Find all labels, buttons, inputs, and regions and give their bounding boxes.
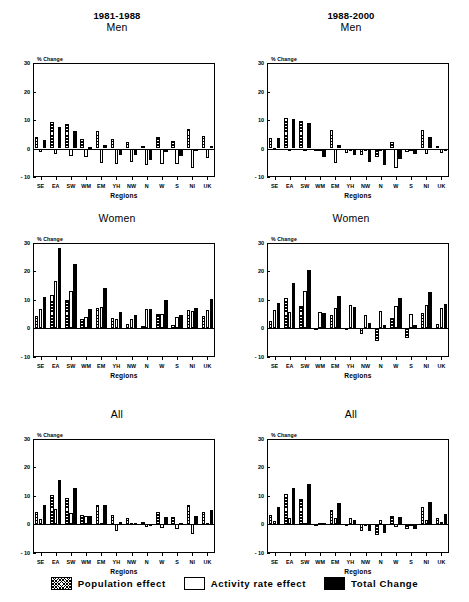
- bar-pop-se: [269, 515, 272, 524]
- y-tick-label: 30: [14, 240, 30, 246]
- x-tick-mark: [290, 357, 291, 360]
- bar-pop-n: [141, 326, 144, 328]
- x-tick-mark: [305, 553, 306, 556]
- y-tick-label: 10: [14, 117, 30, 123]
- legend-item-population-effect: Population effect: [51, 577, 166, 590]
- y-tick-mark: [33, 439, 36, 440]
- bar-act-sw: [303, 149, 306, 151]
- bar-act-em: [334, 308, 337, 328]
- bar-tot-ea: [292, 283, 295, 328]
- legend-item-total-change: Total Change: [324, 577, 418, 590]
- bar-act-w: [160, 524, 163, 528]
- y-tick-label: - 10: [248, 550, 264, 556]
- bar-pop-wm: [314, 149, 317, 152]
- bar-act-ni: [191, 524, 194, 534]
- x-axis-label: Regions: [33, 192, 215, 199]
- bar-tot-ea: [58, 480, 61, 524]
- x-tick-mark: [426, 357, 427, 360]
- bar-act-se: [39, 149, 42, 153]
- bar-tot-se: [277, 507, 280, 524]
- y-tick-label: 30: [248, 60, 264, 66]
- y-tick-label: 0: [248, 521, 264, 527]
- bar-act-w: [394, 524, 397, 527]
- bar-act-se: [273, 148, 276, 150]
- bar-tot-se: [43, 140, 46, 148]
- bar-pop-wm: [80, 515, 83, 524]
- x-tick-mark: [320, 357, 321, 360]
- x-tick-mark: [86, 553, 87, 556]
- bar-pop-nw: [126, 142, 129, 149]
- y-axis-label: % Change: [37, 432, 63, 438]
- bar-pop-n: [375, 149, 378, 158]
- bar-act-em: [100, 307, 103, 328]
- x-tick-mark: [366, 553, 367, 556]
- y-tick-mark: [33, 357, 36, 358]
- bar-act-uk: [206, 310, 209, 328]
- bar-tot-w: [398, 517, 401, 524]
- x-tick-mark: [132, 177, 133, 180]
- bar-tot-wm: [88, 147, 91, 149]
- bar-act-w: [160, 314, 163, 328]
- bar-pop-wm: [80, 139, 83, 149]
- y-tick-label: 10: [14, 297, 30, 303]
- bar-pop-w: [390, 142, 393, 149]
- y-tick-mark: [33, 271, 36, 272]
- x-tick-mark: [411, 177, 412, 180]
- bar-pop-w: [390, 516, 393, 524]
- bar-tot-yh: [119, 312, 122, 328]
- y-tick-label: 0: [14, 325, 30, 331]
- y-tick-label: 30: [14, 436, 30, 442]
- bar-act-yh: [115, 524, 118, 531]
- y-tick-mark: [33, 243, 36, 244]
- x-tick-mark: [275, 177, 276, 180]
- y-tick-mark: [33, 92, 36, 93]
- bar-tot-nw: [368, 524, 371, 531]
- bar-pop-sw: [65, 498, 68, 524]
- bar-pop-se: [269, 138, 272, 148]
- bar-act-wm: [318, 523, 321, 525]
- bar-pop-em: [330, 130, 333, 148]
- bar-act-ni: [191, 149, 194, 168]
- bar-act-nw: [130, 319, 133, 328]
- bar-tot-wm: [322, 313, 325, 328]
- x-tick-mark: [162, 553, 163, 556]
- bar-pop-se: [35, 316, 38, 328]
- bar-pop-yh: [345, 328, 348, 330]
- x-tick-mark: [71, 177, 72, 180]
- bar-pop-s: [405, 328, 408, 338]
- bar-pop-em: [96, 131, 99, 149]
- bar-tot-s: [179, 315, 182, 328]
- x-tick-mark: [207, 177, 208, 180]
- bar-pop-nw: [126, 324, 129, 328]
- bar-pop-uk: [436, 518, 439, 524]
- bar-pop-w: [156, 314, 159, 328]
- bar-pop-em: [330, 315, 333, 328]
- bar-pop-ea: [284, 298, 287, 328]
- x-tick-label-uk: UK: [197, 559, 217, 565]
- bar-pop-nw: [126, 518, 129, 524]
- bar-pop-se: [35, 137, 38, 149]
- bar-act-nw: [130, 149, 133, 163]
- panel-title: All: [0, 409, 234, 421]
- x-tick-label-uk: UK: [431, 183, 451, 189]
- bar-tot-se: [43, 297, 46, 328]
- chart-panel-men-1981-1988: 1981-1988Men% Change3020100- 10SEEASWWME…: [0, 10, 234, 211]
- bar-pop-nw: [360, 149, 363, 156]
- bar-act-ea: [54, 509, 57, 524]
- bar-tot-uk: [444, 149, 447, 151]
- bar-pop-yh: [111, 139, 114, 148]
- x-tick-mark: [101, 357, 102, 360]
- x-tick-label-uk: UK: [431, 363, 451, 369]
- zero-baseline: [33, 149, 215, 150]
- legend-swatch-total-change: [324, 577, 345, 590]
- bar-tot-ea: [292, 119, 295, 149]
- bar-act-ea: [288, 518, 291, 524]
- bar-tot-yh: [353, 520, 356, 524]
- panel-title: Women: [0, 213, 234, 225]
- bar-act-ea: [288, 312, 291, 328]
- bar-act-em: [334, 518, 337, 524]
- plot-area: % Change3020100- 10SEEASWWMEMYHNWNWSNIUK…: [0, 243, 234, 391]
- legend-label-total-change: Total Change: [351, 578, 418, 589]
- panel-title-group: All: [0, 409, 234, 421]
- bar-tot-sw: [307, 123, 310, 149]
